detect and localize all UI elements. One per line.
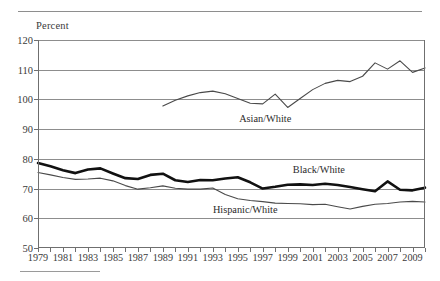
- series-label-asian-white: Asian/White: [239, 113, 291, 124]
- x-tick-mark-2002: [325, 248, 326, 252]
- x-tick-mark-1988: [150, 248, 151, 252]
- y-tick-label-60: 60: [23, 213, 34, 224]
- x-tick-label-1989: 1989: [153, 252, 173, 263]
- x-tick-mark-1996: [250, 248, 251, 252]
- x-tick-mark-1992: [200, 248, 201, 252]
- x-tick-label-1985: 1985: [103, 252, 123, 263]
- x-tick-mark-2008: [400, 248, 401, 252]
- x-tick-mark-1984: [100, 248, 101, 252]
- x-tick-mark-1994: [225, 248, 226, 252]
- x-tick-mark-1990: [175, 248, 176, 252]
- x-tick-label-2005: 2005: [352, 252, 372, 263]
- x-tick-label-1999: 1999: [277, 252, 297, 263]
- x-tick-label-2001: 2001: [302, 252, 322, 263]
- x-tick-mark-2004: [350, 248, 351, 252]
- bottom-divider-rule: [20, 271, 100, 272]
- x-tick-mark-2010: [425, 248, 426, 252]
- x-tick-mark-1986: [125, 248, 126, 252]
- y-tick-label-80: 80: [23, 153, 34, 164]
- x-tick-label-1991: 1991: [178, 252, 198, 263]
- top-divider-rule: [18, 11, 422, 12]
- x-tick-mark-2006: [375, 248, 376, 252]
- x-tick-label-1987: 1987: [128, 252, 148, 263]
- y-tick-label-100: 100: [17, 94, 33, 105]
- x-axis-line: [38, 247, 425, 248]
- y-tick-label-120: 120: [17, 35, 33, 46]
- series-line-asian-white: [163, 61, 425, 108]
- series-line-group: [38, 40, 425, 248]
- x-tick-label-1995: 1995: [228, 252, 248, 263]
- series-label-hispanic-white: Hispanic/White: [213, 204, 278, 215]
- x-tick-label-1979: 1979: [28, 252, 48, 263]
- x-tick-mark-1998: [275, 248, 276, 252]
- y-axis-line: [38, 40, 39, 248]
- x-tick-mark-1982: [75, 248, 76, 252]
- y-tick-label-110: 110: [18, 64, 33, 75]
- plot-area: 5060708090100110120: [38, 40, 425, 248]
- x-tick-label-1983: 1983: [78, 252, 98, 263]
- x-tick-label-2009: 2009: [402, 252, 422, 263]
- right-axis-line: [424, 40, 425, 248]
- series-line-black-white: [38, 163, 425, 191]
- x-tick-label-1981: 1981: [53, 252, 73, 263]
- x-tick-mark-1980: [50, 248, 51, 252]
- x-tick-label-1997: 1997: [253, 252, 273, 263]
- x-tick-label-2003: 2003: [327, 252, 347, 263]
- y-tick-label-70: 70: [23, 183, 34, 194]
- x-tick-label-1993: 1993: [203, 252, 223, 263]
- y-axis-title: Percent: [36, 20, 69, 31]
- series-label-black-white: Black/White: [293, 164, 345, 175]
- y-tick-label-90: 90: [23, 124, 34, 135]
- figure-chart-wage-ratios: Percent 5060708090100110120 197919811983…: [0, 0, 440, 281]
- x-tick-mark-2000: [300, 248, 301, 252]
- x-tick-label-2007: 2007: [377, 252, 397, 263]
